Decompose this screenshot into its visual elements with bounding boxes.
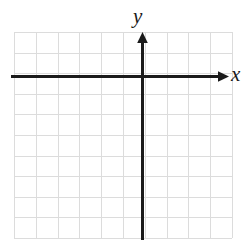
- x-axis-arrowhead: [218, 71, 229, 82]
- y-axis-arrowhead: [137, 32, 148, 43]
- coordinate-plane-svg: [0, 0, 246, 252]
- coordinate-plane-figure: y x: [0, 0, 246, 252]
- x-axis-label: x: [231, 64, 240, 85]
- y-axis-label: y: [133, 6, 142, 27]
